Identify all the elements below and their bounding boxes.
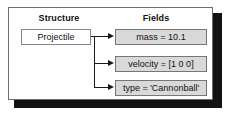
field-box-velocity: velocity = [1 0 0] [115, 56, 207, 72]
column-heading-structure: Structure [23, 13, 95, 23]
arrow-head-icon-mass [108, 33, 114, 39]
column-heading-fields: Fields [105, 13, 207, 23]
field-box-mass: mass = 10.1 [115, 29, 207, 45]
connector-branch-type [94, 87, 109, 88]
connector-branch-velocity [94, 63, 109, 64]
figure-frame: Structure Fields Projectile mass = 10.1 … [8, 7, 213, 100]
arrow-head-icon-velocity [108, 60, 114, 66]
arrow-head-icon-type [108, 84, 114, 90]
field-box-type: type = 'Cannonball' [115, 80, 207, 96]
structure-node-projectile: Projectile [21, 29, 91, 45]
diagram-canvas: Structure Fields Projectile mass = 10.1 … [0, 0, 234, 115]
connector-branch-mass [94, 36, 109, 37]
connector-trunk [94, 36, 95, 88]
